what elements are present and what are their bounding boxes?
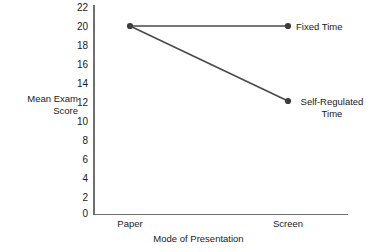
y-axis-title: Mean Exam Score [10, 93, 78, 116]
line-chart: 22 20 18 16 14 12 10 8 6 4 2 0 Fixed Tim… [0, 0, 373, 252]
series-self-regulated-time [130, 26, 291, 104]
y-axis-title-line-2: Score [10, 105, 78, 117]
x-axis-title: Mode of Presentation [0, 233, 373, 244]
x-tick-label-screen: Screen [273, 218, 303, 229]
series-label-fixed-time: Fixed Time [296, 21, 342, 33]
data-point-marker [285, 23, 291, 29]
y-axis-title-line-1: Mean Exam [10, 93, 78, 105]
series-label-self-regulated-time: Self-Regulated Time [296, 96, 368, 119]
plot-area [0, 0, 373, 252]
series-fixed-time [127, 23, 291, 29]
data-point-marker [285, 98, 291, 104]
series-line-self-regulated-time [130, 26, 288, 101]
x-tick-label-paper: Paper [117, 218, 142, 229]
